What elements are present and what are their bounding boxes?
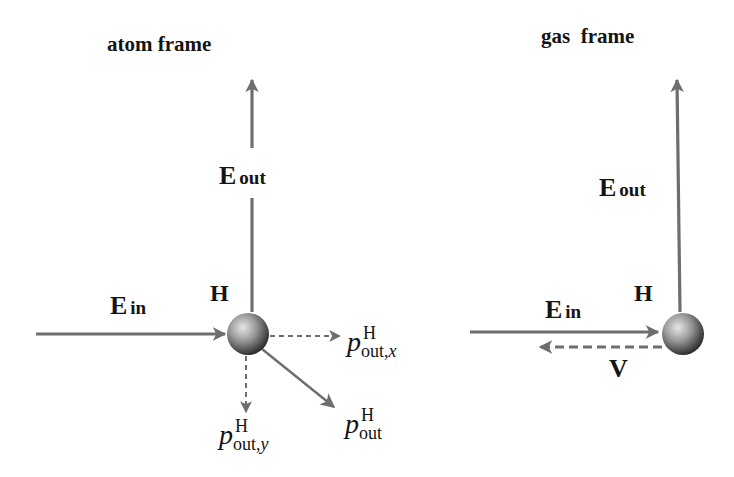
p-out-x-subscript: out, bbox=[361, 341, 389, 361]
e-out-label: Eout bbox=[219, 163, 266, 189]
p-out-y-label: pHout,y bbox=[219, 421, 233, 449]
frame-comparison-diagram: atom frame Eout H Ein pHout,x pHout,y pH… bbox=[0, 0, 734, 477]
p-out-arrow bbox=[262, 349, 334, 407]
e-in-symbol: E bbox=[110, 291, 127, 320]
p-out-y-superscript: H bbox=[235, 417, 248, 435]
p-out-y-subscript-var: y bbox=[261, 434, 269, 454]
e-in-subscript: in bbox=[130, 297, 146, 318]
p-out-subscript: out bbox=[359, 423, 382, 443]
p-out-symbol: p bbox=[345, 408, 359, 439]
atom-label: H bbox=[210, 281, 229, 305]
p-out-x-superscript: H bbox=[363, 324, 376, 342]
p-out-y-symbol: p bbox=[219, 419, 233, 450]
gas-e-in-label: Ein bbox=[545, 297, 581, 323]
gas-e-out-label: Eout bbox=[599, 175, 646, 201]
e-out-arrow bbox=[677, 80, 680, 312]
gas-atom-label: H bbox=[634, 281, 653, 305]
gas-frame-panel bbox=[470, 80, 704, 355]
hydrogen-atom-sphere bbox=[662, 313, 704, 355]
p-out-superscript: H bbox=[361, 406, 374, 424]
atom-frame-panel bbox=[36, 80, 340, 412]
velocity-label: V bbox=[609, 356, 628, 382]
gas-frame-title: gas frame bbox=[541, 26, 634, 47]
gas-e-out-subscript: out bbox=[619, 179, 645, 200]
e-in-label: Ein bbox=[110, 293, 146, 319]
gas-e-in-symbol: E bbox=[545, 295, 562, 324]
p-out-label: pHout bbox=[345, 410, 359, 438]
e-out-symbol: E bbox=[219, 161, 236, 190]
hydrogen-atom-sphere bbox=[227, 313, 269, 355]
atom-frame-title: atom frame bbox=[107, 34, 211, 55]
p-out-y-subscript: out, bbox=[233, 434, 261, 454]
p-out-x-symbol: p bbox=[347, 326, 361, 357]
e-out-subscript: out bbox=[239, 167, 265, 188]
p-out-x-subscript-var: x bbox=[389, 341, 397, 361]
gas-e-in-subscript: in bbox=[565, 301, 581, 322]
gas-e-out-symbol: E bbox=[599, 173, 616, 202]
p-out-x-label: pHout,x bbox=[347, 328, 361, 356]
